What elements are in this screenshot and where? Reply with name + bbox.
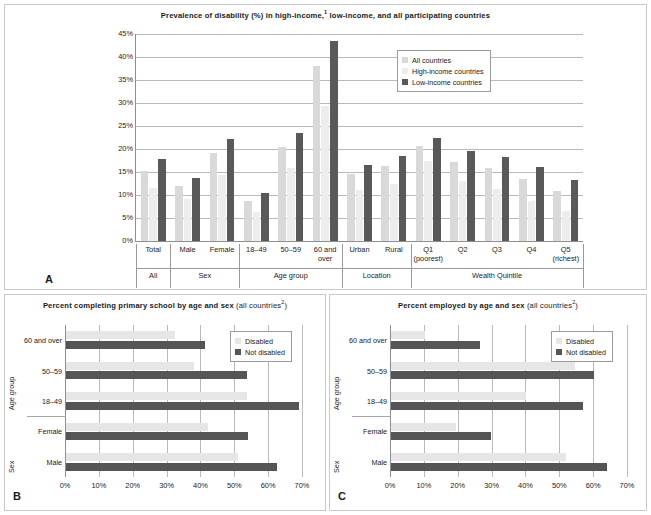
bar-a xyxy=(433,138,441,241)
x-axis-tick-label: 70% xyxy=(617,481,637,490)
x-axis-tick-label: 20% xyxy=(448,481,468,490)
panel-a-plot-area: 0%5%10%15%20%25%30%35%40%45% xyxy=(136,34,583,241)
x-axis-category-label: Urban xyxy=(342,246,376,255)
legend-swatch-icon xyxy=(402,57,408,63)
bar-a xyxy=(184,199,192,241)
bar-a xyxy=(467,151,475,241)
bar-a xyxy=(141,171,149,241)
panel-b-title-main: Percent completing primary school by age… xyxy=(43,301,234,310)
bar-a xyxy=(296,133,304,241)
x-axis-category-sublabel: (richest) xyxy=(543,255,589,264)
bar-c xyxy=(391,423,456,431)
gridline xyxy=(136,172,583,173)
legend-swatch-icon xyxy=(556,349,562,355)
y-axis-category-label: Male xyxy=(9,458,62,467)
panel-c: Percent employed by age and sex (all cou… xyxy=(329,294,647,511)
bar-a xyxy=(493,189,501,241)
panel-b: Percent completing primary school by age… xyxy=(4,294,326,511)
bar-a xyxy=(553,191,561,241)
bar-a xyxy=(364,165,372,241)
panel-a-legend: All countriesHigh-income countriesLow-in… xyxy=(397,50,491,92)
x-axis-group-label: Sex xyxy=(170,271,239,280)
bar-a xyxy=(158,159,166,241)
x-axis-line xyxy=(135,241,583,242)
bar-b xyxy=(66,371,247,379)
bar-b xyxy=(66,423,208,431)
gridline xyxy=(136,34,583,35)
gridline xyxy=(136,80,583,81)
legend-label: Not disabled xyxy=(566,348,606,357)
panel-b-title: Percent completing primary school by age… xyxy=(5,301,325,310)
y-axis-tick-label: 20% xyxy=(109,144,133,153)
bar-a xyxy=(424,161,432,241)
x-axis-group-label: Wealth Quintile xyxy=(411,271,583,280)
bar-c xyxy=(391,432,491,440)
bar-a xyxy=(528,201,536,241)
x-axis-category-label: Female xyxy=(205,246,239,255)
y-axis-category-label: 60 and over xyxy=(334,336,387,345)
x-axis-category-label-line2: over xyxy=(308,255,342,264)
panel-a-title: Prevalence of disability (%) in high-inc… xyxy=(5,11,646,20)
y-axis-tick-label: 10% xyxy=(109,190,133,199)
panel-a-legend-item[interactable]: All countries xyxy=(402,55,484,65)
y-axis-line xyxy=(135,34,136,241)
y-axis-tick-label: 5% xyxy=(109,213,133,222)
bar-a xyxy=(381,166,389,241)
bar-a xyxy=(175,186,183,241)
bar-c xyxy=(391,453,566,461)
bar-a xyxy=(356,190,364,241)
panel-a-title-main: Prevalence of disability (%) in high-inc… xyxy=(161,11,324,20)
x-axis-tick-label: 40% xyxy=(515,481,535,490)
panel-a-legend-item[interactable]: Low-income countries xyxy=(402,77,484,87)
panel-c-legend-item[interactable]: Not disabled xyxy=(556,347,606,357)
y-axis-category-label: 60 and over xyxy=(9,336,62,345)
x-axis-category-label: 50–59 xyxy=(274,246,308,255)
legend-label: Disabled xyxy=(566,337,594,346)
panel-b-letter: B xyxy=(13,490,21,502)
bar-a xyxy=(536,167,544,241)
bar-b xyxy=(66,331,175,339)
x-axis-category-label: Male xyxy=(170,246,204,255)
legend-label: Not disabled xyxy=(245,348,285,357)
x-axis-tick-label: 60% xyxy=(583,481,603,490)
panel-b-legend-item[interactable]: Disabled xyxy=(235,336,285,346)
y-axis-tick-label: 30% xyxy=(109,98,133,107)
legend-label: Disabled xyxy=(245,337,273,346)
panel-a-title-rest: low-income, and all participating countr… xyxy=(327,11,490,20)
y-axis-tick-label: 25% xyxy=(109,121,133,130)
legend-swatch-icon xyxy=(235,349,241,355)
bar-a xyxy=(278,147,286,241)
panel-b-legend: DisabledNot disabled xyxy=(230,331,292,362)
x-axis-tick-label: 70% xyxy=(292,481,312,490)
bar-a xyxy=(287,168,295,241)
bar-a xyxy=(244,201,252,241)
category-separator xyxy=(583,244,584,288)
bar-a xyxy=(399,156,407,241)
bar-c xyxy=(391,331,425,339)
panel-b-legend-item[interactable]: Not disabled xyxy=(235,347,285,357)
bar-a xyxy=(416,146,424,241)
y-axis-category-label: 50–59 xyxy=(334,367,387,376)
x-axis-tick-label: 50% xyxy=(549,481,569,490)
x-axis-tick-label: 60% xyxy=(258,481,278,490)
gridline xyxy=(136,126,583,127)
bar-b xyxy=(66,432,248,440)
panel-b-title-sub: (all countries xyxy=(234,301,281,310)
y-axis-tick-label: 35% xyxy=(109,75,133,84)
panel-c-legend-item[interactable]: Disabled xyxy=(556,336,606,346)
y-axis-category-label: 18–49 xyxy=(9,397,62,406)
bar-a xyxy=(253,212,261,241)
x-axis-group-label: Age group xyxy=(239,271,342,280)
x-axis-tick-label: 50% xyxy=(224,481,244,490)
x-axis-tick-label: 0% xyxy=(380,481,400,490)
panel-a-legend-item[interactable]: High-income countries xyxy=(402,66,484,76)
axis-group-divider xyxy=(352,416,391,417)
bar-c xyxy=(391,341,480,349)
panel-c-title-sub-end: ) xyxy=(575,301,578,310)
bar-a xyxy=(390,184,398,241)
gridline xyxy=(627,325,628,477)
bar-a xyxy=(218,175,226,241)
panel-c-title: Percent employed by age and sex (all cou… xyxy=(330,301,646,310)
x-axis-tick-label: 10% xyxy=(89,481,109,490)
bar-a xyxy=(562,211,570,241)
